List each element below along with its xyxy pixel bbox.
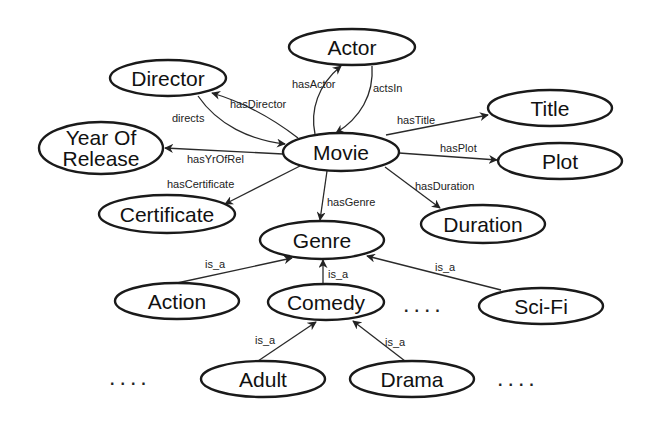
edge-label-drama-is-a: is_a	[385, 336, 406, 348]
node-label-movie: Movie	[313, 141, 369, 164]
node-label-adult: Adult	[239, 368, 287, 391]
node-comedy: Comedy	[268, 284, 384, 320]
node-certificate: Certificate	[99, 195, 235, 233]
node-duration: Duration	[421, 205, 545, 243]
edge-has-plot	[399, 153, 497, 160]
edge-label-adult-is-a: is_a	[255, 334, 276, 346]
node-label-genre: Genre	[293, 229, 351, 252]
edge-label-has-certificate: hasCertificate	[167, 178, 234, 190]
edge-label-directs: directs	[172, 112, 205, 124]
edge-label-has-genre: hasGenre	[327, 196, 375, 208]
edge-acts-in	[336, 66, 372, 133]
ellipsis-middle: ....	[404, 298, 446, 315]
node-label-scifi: Sci-Fi	[514, 295, 568, 318]
edge-label-has-actor: hasActor	[292, 78, 336, 90]
node-title: Title	[488, 90, 612, 126]
node-label-director: Director	[131, 67, 205, 90]
node-label-action: Action	[148, 290, 206, 313]
edge-label-has-duration: hasDuration	[415, 180, 474, 192]
node-genre: Genre	[260, 221, 384, 259]
edge-label-comedy-is-a: is_a	[328, 268, 349, 280]
node-actor: Actor	[289, 29, 415, 65]
node-label-plot: Plot	[542, 150, 578, 173]
edge-label-scifi-is-a: is_a	[435, 261, 456, 273]
node-label-comedy: Comedy	[287, 291, 366, 314]
node-action: Action	[115, 283, 239, 319]
edge-has-genre	[320, 171, 327, 220]
node-director: Director	[110, 60, 226, 96]
edge-label-has-yr-of-rel: hasYrOfRel	[187, 153, 244, 165]
node-label-year-line1: Year Of	[66, 126, 137, 149]
node-adult: Adult	[201, 361, 325, 397]
ellipsis-bottom-right: ....	[498, 372, 540, 389]
edge-label-action-is-a: is_a	[205, 258, 226, 270]
edge-label-has-director: hasDirector	[230, 98, 287, 110]
edge-scifi-is-a	[367, 256, 501, 290]
node-plot: Plot	[498, 143, 622, 179]
edge-action-is-a	[177, 258, 292, 283]
node-label-title: Title	[531, 97, 570, 120]
ellipsis-bottom-left: ....	[110, 371, 152, 388]
node-label-duration: Duration	[443, 213, 522, 236]
edge-label-has-title: hasTitle	[397, 114, 435, 126]
node-drama: Drama	[350, 361, 474, 397]
node-scifi: Sci-Fi	[479, 288, 603, 324]
node-label-year-line2: Release	[62, 147, 139, 170]
edge-has-certificate	[225, 166, 300, 204]
node-label-actor: Actor	[327, 36, 376, 59]
edge-label-has-plot: hasPlot	[440, 142, 477, 154]
node-year-of-release: Year Of Release	[39, 122, 163, 174]
node-movie: Movie	[283, 133, 399, 171]
node-label-certificate: Certificate	[120, 203, 215, 226]
ontology-diagram: hasActor actsIn hasDirector directs hasT…	[0, 0, 649, 427]
edge-has-actor	[314, 66, 341, 134]
node-label-drama: Drama	[380, 368, 443, 391]
edge-label-acts-in: actsIn	[373, 82, 402, 94]
